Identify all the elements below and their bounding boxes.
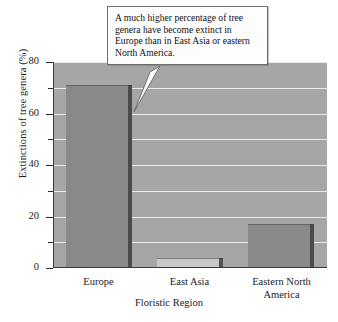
- x-tick-label: East Asia: [144, 276, 235, 289]
- bar: [248, 224, 314, 268]
- bar: [157, 258, 223, 268]
- y-tick-mark: [46, 268, 53, 269]
- y-tick-mark-minor: [48, 88, 53, 89]
- y-tick-mark: [46, 114, 53, 115]
- bar: [66, 85, 132, 268]
- y-axis-title: Extinctions of tree genera (%): [17, 16, 28, 212]
- bar-right-shadow: [219, 258, 223, 268]
- bar-top-edge: [157, 258, 223, 259]
- y-tick-label: 0: [5, 262, 39, 273]
- bar-right-shadow: [310, 224, 314, 268]
- bar-fill: [66, 85, 132, 268]
- y-tick-mark: [46, 217, 53, 218]
- callout-text: A much higher percentage of tree genera …: [115, 12, 250, 58]
- bar-fill: [157, 258, 223, 268]
- y-tick-mark: [46, 62, 53, 63]
- bar-fill: [248, 224, 314, 268]
- bar-chart-figure: 020406080EuropeEast AsiaEastern NorthAme…: [0, 0, 338, 322]
- y-tick-mark-minor: [48, 139, 53, 140]
- x-axis-title: Floristic Region: [0, 297, 338, 308]
- callout-annotation: A much higher percentage of tree genera …: [107, 6, 268, 65]
- y-tick-mark: [46, 165, 53, 166]
- y-tick-mark-minor: [48, 242, 53, 243]
- y-tick-label: 20: [5, 211, 39, 222]
- callout-pointer-icon: [104, 66, 164, 112]
- bar-right-shadow: [128, 85, 132, 268]
- y-tick-mark-minor: [48, 191, 53, 192]
- bar-top-edge: [248, 224, 314, 225]
- x-tick-label: Europe: [53, 276, 144, 289]
